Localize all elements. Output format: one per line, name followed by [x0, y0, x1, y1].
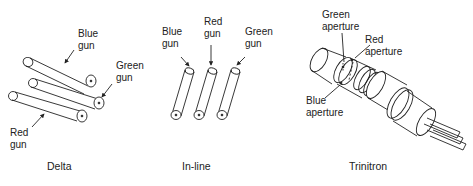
delta-blue-gun-label: Bluegun: [78, 28, 98, 52]
delta-red-gun-label: Redgun: [10, 127, 28, 151]
delta-blue-gun: [22, 56, 96, 94]
delta-green-gun-label: Greengun: [116, 60, 144, 84]
inline-green-gun-label: Greengun: [245, 26, 273, 50]
inline-blue-gun-label: Bluegun: [162, 26, 182, 50]
trinitron-green-aperture-label: Greenaperture: [322, 9, 359, 33]
trinitron-blue-aperture-label: Blueaperture: [306, 95, 343, 119]
delta-guns: [9, 50, 113, 127]
inline-red-gun: [194, 67, 218, 120]
trinitron-caption: Trinitron: [349, 160, 387, 172]
electron-gun-diagram: [0, 0, 473, 186]
inline-caption: In-line: [182, 160, 211, 172]
delta-caption: Delta: [47, 160, 72, 172]
inline-blue-gun: [171, 67, 195, 120]
inline-guns: [171, 45, 245, 120]
inline-green-gun: [217, 67, 241, 120]
inline-red-gun-label: Redgun: [204, 16, 222, 40]
delta-red-gun: [9, 92, 88, 123]
trinitron-red-aperture-label: Redaperture: [365, 34, 402, 58]
